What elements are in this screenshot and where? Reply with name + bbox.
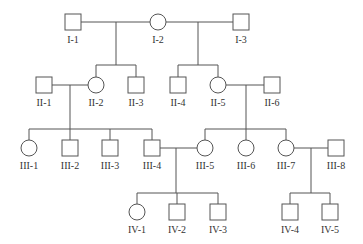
individual-III-3: III-3	[101, 140, 119, 171]
individual-III-7: III-7	[277, 140, 295, 171]
individual-label: I-1	[67, 34, 79, 45]
male-square-icon	[128, 77, 144, 93]
individual-I-3: I-3	[233, 14, 249, 45]
individual-label: IV-5	[321, 224, 339, 235]
individual-IV-2: IV-2	[168, 204, 186, 235]
individual-label: III-4	[143, 160, 161, 171]
female-circle-icon	[210, 77, 226, 93]
individual-label: IV-1	[128, 224, 146, 235]
female-circle-icon	[21, 140, 37, 156]
female-circle-icon	[197, 140, 213, 156]
male-square-icon	[169, 204, 185, 220]
male-square-icon	[36, 77, 52, 93]
couple-I-2-I-3	[166, 22, 233, 77]
individual-label: IV-3	[209, 224, 227, 235]
individual-II-3: II-3	[128, 77, 144, 108]
individual-label: II-2	[89, 97, 104, 108]
individual-IV-5: IV-5	[321, 204, 339, 235]
individual-label: III-8	[327, 160, 345, 171]
male-square-icon	[65, 14, 81, 30]
pedigree-connector-lines	[29, 22, 330, 204]
individual-label: III-1	[20, 160, 38, 171]
individual-I-2: I-2	[150, 14, 166, 45]
individual-III-4: III-4	[143, 140, 161, 171]
individual-II-1: II-1	[36, 77, 52, 108]
individual-label: II-1	[37, 97, 52, 108]
male-square-icon	[170, 77, 186, 93]
pedigree-chart: I-1I-2I-3II-1II-2II-3II-4II-5II-6III-1II…	[0, 0, 363, 244]
individual-label: II-5	[211, 97, 226, 108]
male-square-icon	[62, 140, 78, 156]
male-square-icon	[328, 140, 344, 156]
male-square-icon	[210, 204, 226, 220]
individual-IV-3: IV-3	[209, 204, 227, 235]
individual-II-5: II-5	[210, 77, 226, 108]
couple-I-1-I-2	[81, 22, 150, 77]
female-circle-icon	[129, 204, 145, 220]
male-square-icon	[264, 77, 280, 93]
individual-II-6: II-6	[264, 77, 280, 108]
individual-label: III-6	[237, 160, 255, 171]
individual-II-4: II-4	[170, 77, 186, 108]
individual-label: I-2	[152, 34, 164, 45]
male-square-icon	[282, 204, 298, 220]
individual-III-8: III-8	[327, 140, 345, 171]
female-circle-icon	[238, 140, 254, 156]
male-square-icon	[233, 14, 249, 30]
individual-label: I-3	[235, 34, 247, 45]
male-square-icon	[322, 204, 338, 220]
individual-label: III-3	[101, 160, 119, 171]
individual-III-1: III-1	[20, 140, 38, 171]
individual-II-2: II-2	[88, 77, 104, 108]
individual-label: IV-2	[168, 224, 186, 235]
individual-label: II-3	[129, 97, 144, 108]
individual-III-2: III-2	[61, 140, 79, 171]
individual-label: II-6	[265, 97, 280, 108]
individual-III-5: III-5	[196, 140, 214, 171]
male-square-icon	[102, 140, 118, 156]
individual-III-6: III-6	[237, 140, 255, 171]
female-circle-icon	[150, 14, 166, 30]
individual-label: III-2	[61, 160, 79, 171]
individual-IV-4: IV-4	[281, 204, 299, 235]
individual-label: III-5	[196, 160, 214, 171]
individual-I-1: I-1	[65, 14, 81, 45]
individual-label: II-4	[171, 97, 186, 108]
pedigree-individuals: I-1I-2I-3II-1II-2II-3II-4II-5II-6III-1II…	[20, 14, 345, 235]
individual-label: IV-4	[281, 224, 299, 235]
male-square-icon	[144, 140, 160, 156]
individual-label: III-7	[277, 160, 295, 171]
female-circle-icon	[278, 140, 294, 156]
couple-III-7-III-8	[290, 148, 330, 204]
female-circle-icon	[88, 77, 104, 93]
individual-IV-1: IV-1	[128, 204, 146, 235]
